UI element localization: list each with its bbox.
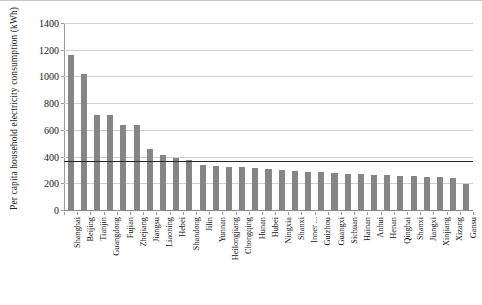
bar-slot: [104, 23, 117, 210]
plot-area: 0200400600800100012001400: [64, 23, 473, 210]
bar[interactable]: [345, 174, 351, 210]
x-axis-label: Chongqing: [245, 217, 253, 254]
bar-slot: [209, 23, 222, 210]
bar-slot: [315, 23, 328, 210]
x-tick-mark: [407, 212, 408, 215]
bar[interactable]: [358, 174, 364, 210]
bar-slot: [341, 23, 354, 210]
bar[interactable]: [226, 167, 232, 210]
bar-slot: [367, 23, 380, 210]
bar-slot: [222, 23, 235, 210]
bar[interactable]: [213, 166, 219, 210]
x-tick-mark: [249, 212, 250, 215]
x-tick-mark: [328, 212, 329, 215]
x-tick-mark: [64, 212, 65, 215]
x-axis-label: Sichuan: [351, 217, 359, 244]
bar-slot: [143, 23, 156, 210]
bar[interactable]: [318, 172, 324, 210]
bar-slot: [354, 23, 367, 210]
x-axis-label: Guangdong: [113, 217, 121, 256]
bar-slot: [275, 23, 288, 210]
bar[interactable]: [134, 125, 140, 210]
bar[interactable]: [199, 165, 205, 210]
x-tick-mark: [104, 212, 105, 215]
bar[interactable]: [411, 176, 417, 210]
x-tick-mark: [341, 212, 342, 215]
bar[interactable]: [371, 175, 377, 210]
x-axis-label: Xinjiang: [443, 217, 451, 246]
x-axis-label: Yunnan: [219, 217, 227, 242]
bar[interactable]: [239, 167, 245, 210]
x-axis-label: Hainan: [364, 217, 372, 241]
bar-slot: [262, 23, 275, 210]
bar-slot: [394, 23, 407, 210]
x-axis-label: Jiangsu: [153, 217, 161, 242]
x-tick-mark: [209, 212, 210, 215]
bar[interactable]: [94, 115, 100, 210]
x-tick-mark: [170, 212, 171, 215]
bar[interactable]: [173, 158, 179, 210]
bar[interactable]: [437, 177, 443, 210]
bar[interactable]: [450, 178, 456, 210]
y-tick-label: 1200: [39, 44, 59, 55]
bar-slot: [170, 23, 183, 210]
x-axis-label: Jiangxi: [430, 217, 438, 241]
x-axis-label: Henan: [390, 217, 398, 239]
bar[interactable]: [384, 175, 390, 210]
x-tick-mark: [433, 212, 434, 215]
x-tick-mark: [156, 212, 157, 215]
bar-slot: [130, 23, 143, 210]
bar[interactable]: [107, 115, 113, 210]
bar[interactable]: [279, 170, 285, 210]
x-axis-label: Gansu: [470, 217, 478, 238]
bar[interactable]: [252, 168, 258, 210]
x-tick-mark: [196, 212, 197, 215]
bar[interactable]: [81, 74, 87, 210]
chart-figure: Per capita household electricity consump…: [0, 0, 482, 305]
x-axis-label: Inner ...: [311, 217, 319, 243]
x-tick-mark: [301, 212, 302, 215]
x-axis-label: Fujian: [127, 217, 135, 238]
x-axis-label: Hunan: [259, 217, 267, 239]
bar[interactable]: [186, 160, 192, 210]
bar[interactable]: [331, 173, 337, 210]
y-tick-label: 800: [44, 98, 59, 109]
y-tick-mark: [61, 210, 64, 211]
bar[interactable]: [147, 149, 153, 210]
x-axis-label: Anhui: [377, 217, 385, 238]
bar[interactable]: [305, 172, 311, 210]
bar[interactable]: [463, 184, 469, 210]
x-axis-label: Guangxi: [338, 217, 346, 246]
x-axis-labels: ShanghaiBeijingTianjinGuangdongFujianZhe…: [64, 212, 473, 304]
x-axis-label: Hebei: [179, 217, 187, 237]
bar[interactable]: [265, 169, 271, 210]
x-axis-label: Tianjin: [100, 217, 108, 241]
x-tick-mark: [394, 212, 395, 215]
x-axis-label: Liaoning: [166, 217, 174, 247]
bar-slot: [90, 23, 103, 210]
bar[interactable]: [120, 125, 126, 210]
x-tick-mark: [90, 212, 91, 215]
bar-slot: [447, 23, 460, 210]
bar-slot: [407, 23, 420, 210]
bar-slot: [236, 23, 249, 210]
bar-slot: [117, 23, 130, 210]
x-tick-mark: [236, 212, 237, 215]
bar-slot: [196, 23, 209, 210]
x-axis-label: Zhejiang: [140, 217, 148, 247]
y-axis-title: Per capita household electricity consump…: [9, 10, 19, 210]
bar[interactable]: [292, 171, 298, 210]
x-tick-mark: [183, 212, 184, 215]
x-axis-label: Ningxia: [285, 217, 293, 244]
bar-slot: [288, 23, 301, 210]
bar-slot: [183, 23, 196, 210]
bar[interactable]: [68, 55, 74, 210]
bar-slot: [420, 23, 433, 210]
bar[interactable]: [424, 177, 430, 210]
bar[interactable]: [397, 176, 403, 210]
bar[interactable]: [160, 155, 166, 210]
bar-slot: [460, 23, 473, 210]
bar-slot: [64, 23, 77, 210]
x-tick-mark: [381, 212, 382, 215]
x-axis-label: Xizang: [456, 217, 464, 241]
